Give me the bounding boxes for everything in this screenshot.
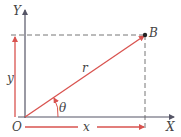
y-component-label: y [6, 71, 14, 85]
theta-angle-arc [54, 98, 58, 117]
x-axis-label: X [165, 120, 175, 134]
y-axis-label: Y [13, 4, 22, 18]
theta-label: θ [59, 101, 67, 115]
origin-label: O [12, 120, 22, 134]
polar-coordinate-diagram: Y X O B r θ x y [0, 0, 181, 137]
radius-vector-r [25, 36, 144, 117]
point-b-label: B [148, 26, 158, 40]
point-b-dot [143, 33, 147, 37]
x-component-label: x [83, 120, 90, 134]
radius-label: r [82, 61, 89, 75]
